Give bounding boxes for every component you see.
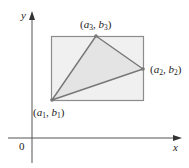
origin-label: 0 bbox=[19, 140, 25, 152]
vertex-label-3: (a3, b3) bbox=[80, 18, 112, 32]
svg-text:(a3, b3): (a3, b3) bbox=[80, 18, 112, 32]
y-axis-label: y bbox=[20, 9, 26, 21]
y-axis-arrow-icon bbox=[29, 11, 35, 20]
diagram-canvas: y x 0 (a3, b3) (a2, b2) (a1, b1) bbox=[0, 0, 189, 168]
svg-text:(a1, b1): (a1, b1) bbox=[33, 106, 65, 120]
vertex-point-1 bbox=[50, 98, 54, 102]
x-axis-label: x bbox=[172, 141, 178, 153]
vertex-label-2: (a2, b2) bbox=[150, 63, 182, 77]
vertex-point-3 bbox=[94, 34, 98, 38]
svg-text:(a2, b2): (a2, b2) bbox=[150, 63, 182, 77]
vertex-point-2 bbox=[141, 67, 145, 71]
vertex-label-1: (a1, b1) bbox=[33, 106, 65, 120]
